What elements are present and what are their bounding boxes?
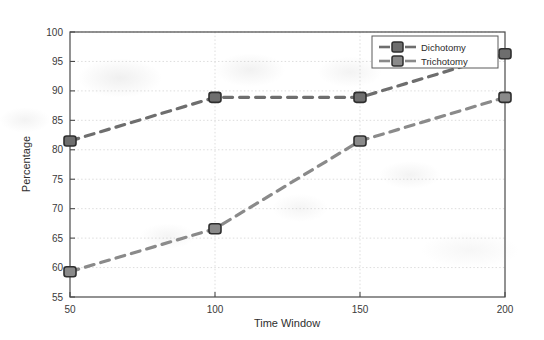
x-tick-label: 50: [64, 304, 76, 315]
x-tick-label: 200: [497, 304, 514, 315]
y-tick-label: 65: [52, 233, 64, 244]
data-point-marker: [64, 267, 76, 277]
data-point-marker: [354, 92, 366, 102]
y-tick-label: 90: [52, 85, 64, 96]
data-point-marker: [209, 92, 221, 102]
x-tick-label: 150: [352, 304, 369, 315]
y-tick-label: 75: [52, 174, 64, 185]
legend-label: Dichotomy: [421, 42, 466, 53]
x-axis-title: Time Window: [254, 317, 320, 329]
legend-marker: [392, 42, 403, 52]
line-chart: 556065707580859095100 50100150200 Time W…: [0, 0, 544, 340]
chart-container: 556065707580859095100 50100150200 Time W…: [0, 0, 544, 340]
legend-label: Trichotomy: [421, 56, 468, 67]
legend-item-1: Dichotomy: [379, 42, 466, 53]
data-point-marker: [499, 49, 511, 59]
data-point-marker: [64, 136, 76, 146]
legend-item-2: Trichotomy: [379, 56, 468, 67]
y-tick-label: 80: [52, 144, 64, 155]
data-point-marker: [354, 136, 366, 146]
y-axis-title: Percentage: [20, 136, 32, 192]
x-tick-label: 100: [207, 304, 224, 315]
data-point-marker: [209, 224, 221, 234]
y-tick-label: 85: [52, 115, 64, 126]
legend-marker: [392, 56, 403, 66]
y-tick-label: 100: [46, 27, 63, 38]
legend: DichotomyTrichotomy: [372, 36, 498, 68]
data-point-marker: [499, 92, 511, 102]
y-tick-label: 95: [52, 56, 64, 67]
y-tick-label: 60: [52, 262, 64, 273]
y-tick-label: 55: [52, 292, 64, 303]
y-tick-label: 70: [52, 203, 64, 214]
